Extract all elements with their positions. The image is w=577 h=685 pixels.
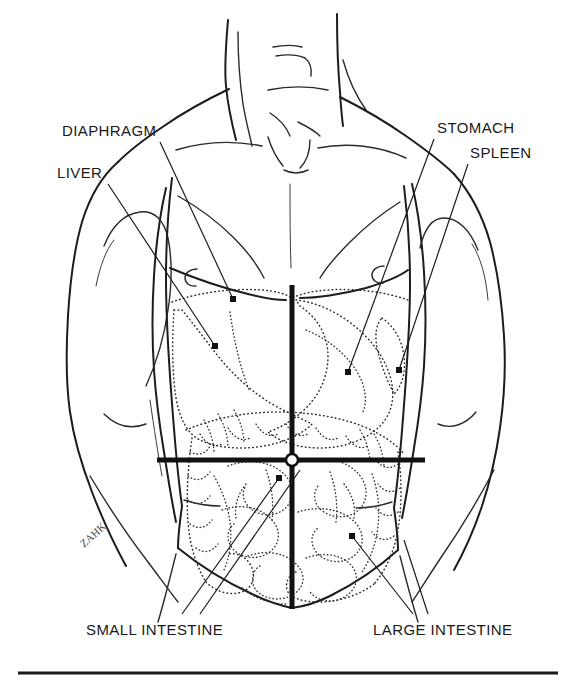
anatomy-figure: DIAPHRAGM LIVER STOMACH SPLEEN SMALL INT… [0,0,577,685]
label-liver[interactable]: LIVER [57,164,102,181]
label-diaphragm[interactable]: DIAPHRAGM [62,122,156,139]
leader-dot-liver [212,343,218,349]
label-small-intestine[interactable]: SMALL INTESTINE [86,621,223,638]
leader-dot-spleen [396,367,402,373]
label-stomach[interactable]: STOMACH [437,119,515,136]
label-spleen[interactable]: SPLEEN [470,144,532,161]
figure-background [0,0,577,685]
leader-dot-stomach [345,369,351,375]
label-large-intestine[interactable]: LARGE INTESTINE [373,621,512,638]
leader-dot-diaphragm [230,296,236,302]
leader-dot-small-intestine [276,475,282,481]
umbilicus-marker [286,454,298,466]
leader-dot-large-intestine [349,533,355,539]
anatomy-diagram-svg: DIAPHRAGM LIVER STOMACH SPLEEN SMALL INT… [0,0,577,685]
